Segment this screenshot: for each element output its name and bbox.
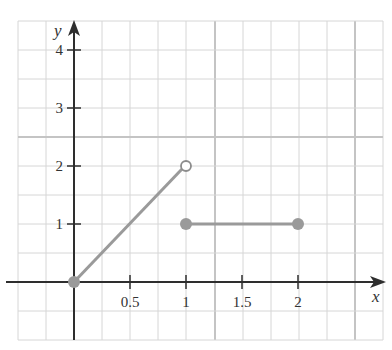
- closed-point-marker: [68, 276, 80, 288]
- y-axis-label: y: [52, 21, 62, 40]
- y-tick-label: 3: [56, 100, 64, 116]
- x-tick-label: 1: [182, 294, 190, 310]
- x-axis-label: x: [371, 287, 380, 306]
- x-tick-label: 1.5: [233, 294, 252, 310]
- closed-point-marker: [292, 218, 304, 230]
- y-tick-label: 4: [56, 42, 64, 58]
- x-axis: [6, 276, 386, 288]
- y-tick-label: 2: [56, 158, 64, 174]
- x-tick-label: 2: [294, 294, 302, 310]
- x-tick-label: 0.5: [121, 294, 140, 310]
- open-point-marker: [181, 161, 191, 171]
- grid: [18, 21, 383, 340]
- y-tick-label: 1: [56, 216, 64, 232]
- closed-point-marker: [180, 218, 192, 230]
- series-segment-2: [180, 218, 304, 230]
- piecewise-function-chart: 0.5 1 1.5 2 1 2 3 4 x y: [0, 0, 392, 350]
- y-axis: [68, 20, 80, 340]
